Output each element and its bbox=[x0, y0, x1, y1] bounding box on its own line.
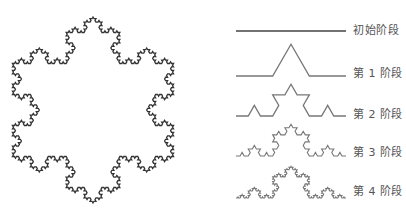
stage-4-curve bbox=[236, 166, 346, 198]
stage-2-curve bbox=[236, 84, 346, 116]
koch-stages-diagram bbox=[0, 0, 406, 216]
stage-2-label: 第 2 阶段 bbox=[353, 109, 403, 121]
stage-1-curve bbox=[236, 44, 346, 76]
stage-3-curve bbox=[236, 124, 346, 156]
stage-1-label: 第 1 阶段 bbox=[353, 68, 403, 80]
stage-0-label: 初始阶段 bbox=[353, 25, 399, 37]
stage-3-label: 第 3 阶段 bbox=[353, 147, 403, 159]
stage-4-label: 第 4 阶段 bbox=[353, 186, 403, 198]
